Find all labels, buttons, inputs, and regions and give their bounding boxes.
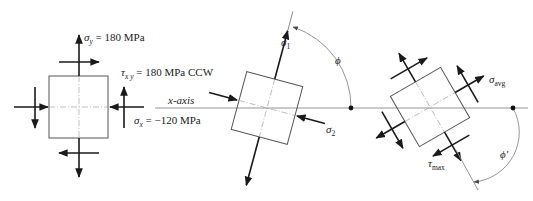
diagram-canvas: σy = 180 MPa τx y = 180 MPa CCW σx = −12… (0, 0, 533, 201)
sigma-avg-label: σavg (489, 73, 506, 88)
phi-angle-arc (293, 27, 351, 108)
stress-transformation-diagram: σy = 180 MPa τx y = 180 MPa CCW σx = −12… (0, 0, 533, 201)
sigma-avg-bottom-arrow (445, 132, 462, 161)
phi-prime-label: ϕ′ (500, 148, 509, 160)
principal-reference-line (288, 11, 293, 30)
sigma1-bottom-arrow (246, 137, 259, 185)
sigma-x-label: σx = −120 MPa (134, 114, 201, 129)
tau-max-bottom-arrow (433, 135, 469, 156)
tau-max-left-arrow (382, 112, 403, 148)
sigma-avg-right-arrow (455, 76, 484, 93)
x-axis-label: x-axis (167, 94, 194, 106)
phi-prime-arc-origin-dot (511, 106, 516, 111)
principal-element (188, 0, 350, 201)
sigma-avg-left-arrow (376, 122, 405, 139)
tau-max-right-arrow (457, 66, 478, 102)
tau-max-label: τmax (428, 157, 445, 172)
sigma-avg-top-arrow (399, 53, 416, 82)
sigma2-left-arrow (209, 92, 237, 100)
phi-arc-origin-dot (349, 106, 354, 111)
sigma2-right-arrow (297, 116, 325, 124)
phi-label: ϕ (335, 54, 341, 66)
shear-element-centerline-1 (405, 93, 455, 122)
tau-max-top-arrow (391, 58, 427, 79)
shear-element-square (390, 67, 469, 146)
original-element: σy = 180 MPa τx y = 180 MPa CCW σx = −12… (14, 31, 214, 177)
phi-prime-angle-arc (474, 108, 519, 182)
sigma-y-label: σy = 180 MPa (84, 31, 145, 46)
tau-xy-label: τx y = 180 MPa CCW (121, 66, 214, 81)
shear-reference-line (456, 150, 478, 190)
shear-element-centerline-2 (416, 82, 445, 132)
sigma2-label: σ2 (326, 123, 335, 138)
